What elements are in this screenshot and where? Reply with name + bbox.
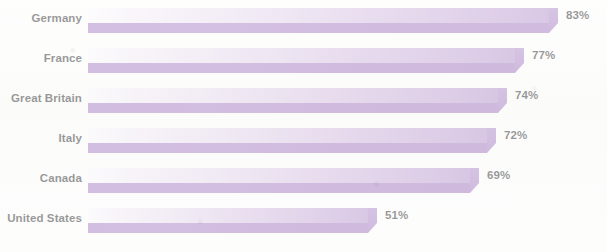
bar-bevel-edge bbox=[368, 208, 377, 233]
bar bbox=[88, 208, 377, 233]
bar-bevel-edge bbox=[470, 168, 479, 193]
bar-highlight-face bbox=[88, 88, 507, 103]
bar-shadow-face bbox=[88, 63, 515, 73]
bar-shadow-face bbox=[88, 103, 498, 113]
bar-highlight-face bbox=[88, 8, 558, 23]
bar-bevel-edge bbox=[498, 88, 507, 113]
bar bbox=[88, 128, 496, 153]
bar bbox=[88, 8, 558, 33]
bar-highlight-face bbox=[88, 128, 496, 143]
bar-highlight-face bbox=[88, 208, 377, 223]
bar-highlight-face bbox=[88, 48, 524, 63]
value-label: 83% bbox=[566, 9, 589, 21]
category-label: Germany bbox=[0, 12, 82, 24]
bar-bevel-edge bbox=[487, 128, 496, 153]
bar-bevel-edge bbox=[515, 48, 524, 73]
bar-chart: Germany83%France77%Great Britain74%Italy… bbox=[0, 0, 607, 252]
value-label: 77% bbox=[532, 49, 555, 61]
category-label: Great Britain bbox=[0, 92, 82, 104]
category-label: Italy bbox=[0, 132, 82, 144]
bar bbox=[88, 168, 479, 193]
value-label: 74% bbox=[515, 89, 538, 101]
bar bbox=[88, 48, 524, 73]
category-label: United States bbox=[0, 212, 82, 224]
value-label: 69% bbox=[487, 169, 510, 181]
category-label: France bbox=[0, 52, 82, 64]
bar-shadow-face bbox=[88, 183, 470, 193]
bar-shadow-face bbox=[88, 223, 368, 233]
bar-shadow-face bbox=[88, 143, 487, 153]
value-label: 72% bbox=[504, 129, 527, 141]
bar-shadow-face bbox=[88, 23, 549, 33]
bar-highlight-face bbox=[88, 168, 479, 183]
category-label: Canada bbox=[0, 172, 82, 184]
bar-bevel-edge bbox=[549, 8, 558, 33]
value-label: 51% bbox=[385, 209, 408, 221]
bar bbox=[88, 88, 507, 113]
